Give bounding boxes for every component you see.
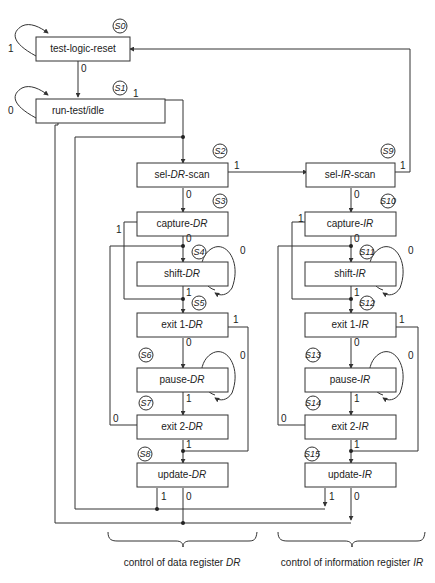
svg-text:capture-DR: capture-DR <box>156 218 207 229</box>
svg-text:1: 1 <box>329 491 335 502</box>
svg-text:0: 0 <box>354 189 360 200</box>
svg-text:1: 1 <box>133 88 139 99</box>
ir-caption: control of information register IR <box>281 557 423 568</box>
svg-text:run-test/idle: run-test/idle <box>52 105 105 116</box>
svg-text:1: 1 <box>354 287 360 298</box>
svg-text:0: 0 <box>354 233 360 244</box>
svg-text:sel-IR-scan: sel-IR-scan <box>325 169 376 180</box>
state-s0: test-logic-reset S0 <box>36 19 130 61</box>
svg-text:0: 0 <box>186 491 192 502</box>
svg-text:0: 0 <box>281 413 287 424</box>
svg-text:0: 0 <box>186 189 192 200</box>
svg-text:0: 0 <box>81 63 87 74</box>
svg-text:1: 1 <box>186 439 192 450</box>
svg-text:1: 1 <box>186 393 192 404</box>
svg-text:S5: S5 <box>193 298 205 308</box>
svg-text:0: 0 <box>408 245 414 256</box>
svg-text:pause-IR: pause-IR <box>330 374 371 385</box>
tap-controller-state-diagram: test-logic-reset S0 run-test/idle S1 sel… <box>0 0 435 583</box>
state-s15: update-IR S15 <box>304 447 396 487</box>
state-s14: exit 2-IR S14 <box>305 396 396 439</box>
svg-text:0: 0 <box>8 105 14 116</box>
svg-text:0: 0 <box>354 337 360 348</box>
svg-text:0: 0 <box>240 350 246 361</box>
svg-text:1: 1 <box>233 314 239 325</box>
state-s13: pause-IR S13 <box>305 348 396 392</box>
svg-text:0: 0 <box>186 233 192 244</box>
svg-text:exit 1-DR: exit 1-DR <box>161 319 203 330</box>
svg-text:1: 1 <box>400 160 406 171</box>
svg-text:1: 1 <box>399 314 405 325</box>
svg-text:exit 2-IR: exit 2-IR <box>331 421 368 432</box>
svg-text:sel-DR-scan: sel-DR-scan <box>154 169 209 180</box>
svg-text:test-logic-reset: test-logic-reset <box>50 43 116 54</box>
svg-text:S7: S7 <box>140 398 152 408</box>
svg-text:0: 0 <box>113 413 119 424</box>
svg-text:1: 1 <box>186 287 192 298</box>
svg-text:exit 2-DR: exit 2-DR <box>161 421 203 432</box>
svg-text:S14: S14 <box>305 398 321 408</box>
svg-text:capture-IR: capture-IR <box>327 218 374 229</box>
svg-text:exit 1-IR: exit 1-IR <box>331 319 368 330</box>
state-s1: run-test/idle S1 <box>36 81 165 123</box>
svg-text:shift-DR: shift-DR <box>164 268 200 279</box>
svg-text:S12: S12 <box>359 298 375 308</box>
svg-text:1: 1 <box>234 160 240 171</box>
svg-text:0: 0 <box>408 350 414 361</box>
svg-text:1: 1 <box>298 213 304 224</box>
svg-text:0: 0 <box>354 491 360 502</box>
svg-text:S11: S11 <box>359 247 374 257</box>
svg-text:1: 1 <box>354 439 360 450</box>
svg-text:1: 1 <box>8 43 14 54</box>
svg-text:1: 1 <box>116 224 122 235</box>
svg-text:S0: S0 <box>114 21 125 31</box>
svg-text:1: 1 <box>354 393 360 404</box>
svg-text:S10: S10 <box>380 196 396 206</box>
svg-text:shift-IR: shift-IR <box>334 268 366 279</box>
svg-text:pause-DR: pause-DR <box>159 374 204 385</box>
svg-text:0: 0 <box>186 337 192 348</box>
svg-text:S8: S8 <box>139 449 150 459</box>
svg-text:S9: S9 <box>382 146 393 156</box>
svg-text:S13: S13 <box>305 350 321 360</box>
ir-brace <box>278 532 425 547</box>
svg-text:update-DR: update-DR <box>158 469 206 480</box>
svg-text:S15: S15 <box>304 449 321 459</box>
svg-text:1: 1 <box>161 491 167 502</box>
state-s9: sel-IR-scan S9 <box>306 144 395 187</box>
svg-text:S1: S1 <box>114 83 125 93</box>
svg-text:S4: S4 <box>193 247 204 257</box>
svg-text:S6: S6 <box>140 350 151 360</box>
svg-text:S3: S3 <box>214 196 225 206</box>
dr-caption: control of data register DR <box>124 557 241 568</box>
dr-brace <box>108 532 257 547</box>
svg-text:S2: S2 <box>214 146 225 156</box>
svg-text:update-IR: update-IR <box>328 469 372 480</box>
svg-text:0: 0 <box>240 245 246 256</box>
